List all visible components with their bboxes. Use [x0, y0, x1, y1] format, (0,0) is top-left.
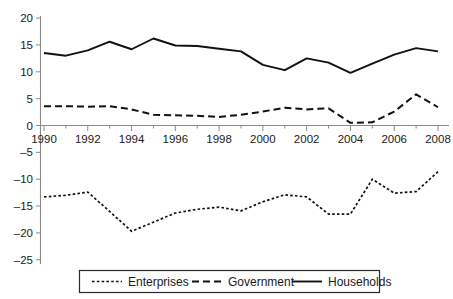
chart-background: [0, 0, 453, 299]
y-tick-label: 15: [20, 39, 33, 51]
y-tick-label: –5: [20, 146, 33, 158]
y-tick-label: 20: [20, 12, 33, 24]
y-tick-label: –10: [14, 173, 33, 185]
x-tick-label: 2000: [250, 133, 276, 145]
chart-container: 20151050–5–10–15–20–25 19901992199419961…: [0, 0, 453, 299]
x-tick-label: 2006: [381, 133, 407, 145]
legend-label-government: Government: [228, 275, 295, 289]
x-tick-label: 1994: [119, 133, 145, 145]
x-tick-label: 1996: [163, 133, 189, 145]
y-tick-label: –20: [14, 227, 33, 239]
x-tick-label: 2004: [338, 133, 364, 145]
legend-items: EnterprisesGovernmentHouseholds: [92, 275, 391, 289]
chart-legend: EnterprisesGovernmentHouseholds: [80, 271, 392, 293]
y-tick-label: 5: [27, 93, 33, 105]
x-tick-label: 2008: [425, 133, 451, 145]
x-tick-label: 2002: [294, 133, 320, 145]
y-tick-label: –25: [14, 254, 33, 266]
legend-label-households: Households: [328, 275, 391, 289]
line-chart: 20151050–5–10–15–20–25 19901992199419961…: [0, 0, 453, 299]
legend-label-enterprises: Enterprises: [128, 275, 189, 289]
x-tick-label: 1998: [206, 133, 232, 145]
y-tick-label: 10: [20, 66, 33, 78]
y-tick-label: 0: [27, 120, 33, 132]
x-tick-label: 1992: [75, 133, 101, 145]
x-tick-label: 1990: [31, 133, 57, 145]
y-tick-label: –15: [14, 200, 33, 212]
